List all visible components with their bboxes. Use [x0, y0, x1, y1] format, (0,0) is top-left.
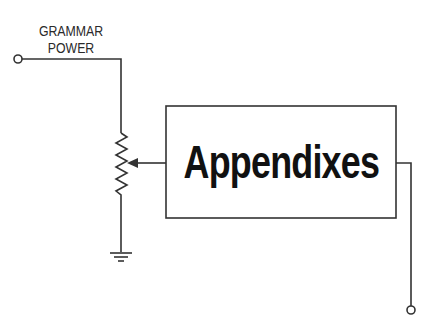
input-wire — [22, 59, 121, 133]
wiper-arrow-icon — [127, 158, 138, 168]
output-wire — [396, 163, 411, 306]
block-title-text: Appendixes — [183, 135, 379, 189]
block-title: Appendixes — [166, 106, 396, 218]
input-terminal-icon — [14, 55, 22, 63]
input-label-line2: POWER — [34, 39, 108, 56]
potentiometer-resistor-icon — [116, 133, 127, 198]
input-label-line1: GRAMMAR — [34, 22, 108, 39]
output-terminal-icon — [407, 306, 415, 314]
ground-icon — [110, 253, 132, 261]
